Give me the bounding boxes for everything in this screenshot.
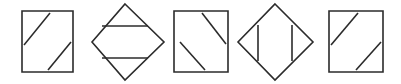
figure-5-square-outline [329,11,383,72]
figure-1-square-outline [22,11,73,72]
figure-3-square-with-diagonals [174,11,228,72]
figures-canvas [0,0,401,84]
figure-4-diamond-outline [238,4,313,80]
geometric-figure-strip [0,0,401,84]
figure-2-diamond-outline [92,4,164,80]
figure-1-square-with-diagonals [22,11,73,72]
figure-5-square-with-diagonals [329,11,383,72]
figure-2-diamond-with-horizontal-chords [92,4,164,80]
figure-3-square-outline [174,11,228,72]
figure-4-diamond-with-vertical-chords [238,4,313,80]
